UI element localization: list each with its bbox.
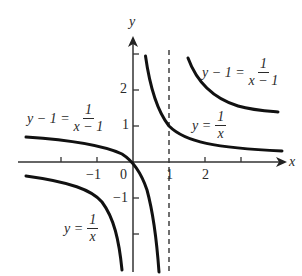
fraction: 1 x − 1 [249,57,279,88]
origin-label: 0 [120,168,127,182]
label-shifted-left: y − 1 = 1 x − 1 [27,103,103,134]
curve-shifted-left-branch [26,137,159,272]
fraction-numerator: 1 [215,110,226,126]
x-tick-label-neg1: −1 [86,168,101,182]
y-tick-label-1: 1 [122,118,129,132]
label-shifted-upper-right: y − 1 = 1 x − 1 [202,57,278,88]
fraction: 1 x [215,110,226,141]
equation-lhs: y − 1 = [202,65,245,81]
fraction: 1 x − 1 [74,103,104,134]
equation-lhs: y − 1 = [27,111,70,127]
graph-canvas [0,0,302,276]
y-axis-label: y [129,15,135,29]
y-ticks [133,54,139,234]
equation-lhs: y = [64,221,83,237]
x-tick-label-1: 1 [166,168,173,182]
fraction-numerator: 1 [258,57,269,73]
y-tick-label-2: 2 [120,82,127,96]
fraction: 1 x [87,213,98,244]
graph-figure: y x 0 −1 1 2 2 1 −1 y − 1 = 1 x − 1 y − … [0,0,302,276]
fraction-numerator: 1 [83,103,94,119]
y-tick-label-neg1: −1 [113,191,128,205]
fraction-denominator: x − 1 [74,119,104,134]
fraction-denominator: x [218,126,224,141]
label-base-left: y = 1 x [64,213,98,244]
fraction-denominator: x [90,229,96,244]
fraction-denominator: x − 1 [249,73,279,88]
equation-lhs: y = [192,118,211,134]
label-base-right: y = 1 x [192,110,226,141]
x-tick-label-2: 2 [202,168,209,182]
x-axis-label: x [289,155,295,169]
fraction-numerator: 1 [87,213,98,229]
